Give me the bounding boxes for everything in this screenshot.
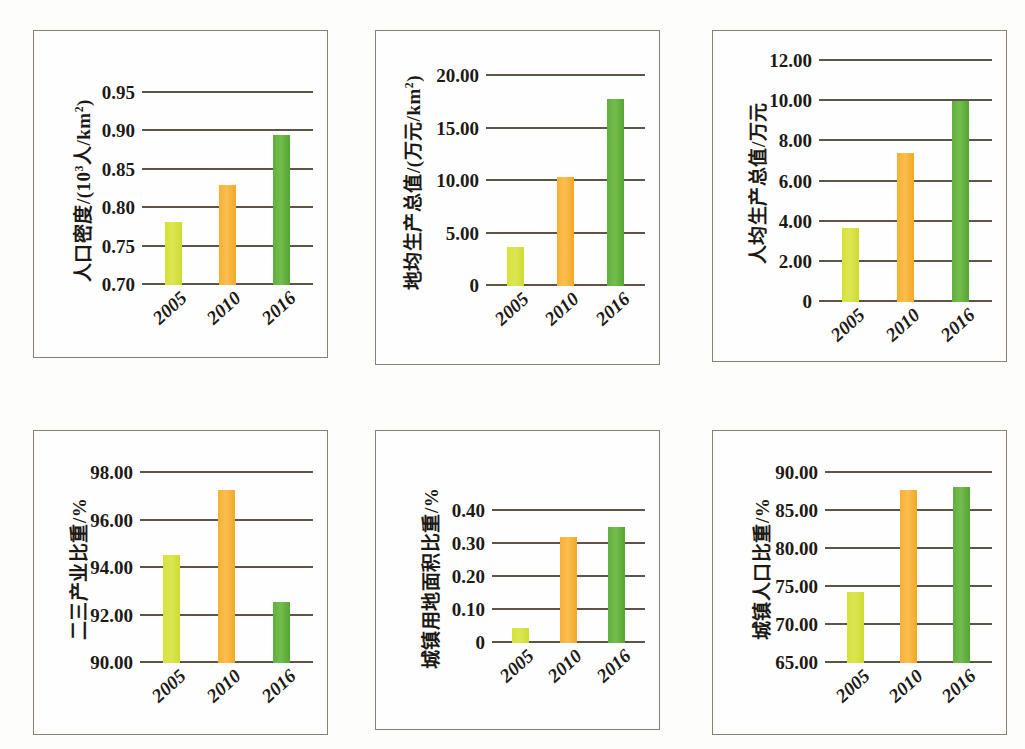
bar-2016[interactable] — [273, 602, 290, 663]
bar-2016[interactable] — [953, 487, 970, 663]
y-axis-tick-label: 75.00 — [775, 576, 818, 598]
bar-slot: 2016 — [255, 93, 309, 285]
bar-2005[interactable] — [512, 628, 529, 643]
x-axis-tick-label: 2010 — [881, 304, 924, 346]
y-axis-tick-label: 80.00 — [775, 538, 818, 560]
y-axis-tick-label: 0.30 — [452, 533, 485, 555]
chart-panel-land-gdp-density: 地均生产总值/(万元/km2) 05.0010.0015.0020.002005… — [375, 30, 660, 365]
bar-slot: 2016 — [933, 61, 988, 302]
y-axis-title: 城镇人口比重/% — [747, 498, 774, 640]
y-axis-tick-label: 96.00 — [90, 509, 133, 531]
y-axis-tick-label: 5.00 — [446, 222, 479, 244]
y-axis-title: 二三产业比重/% — [64, 498, 91, 640]
y-axis-tick-label: 6.00 — [779, 170, 812, 192]
y-axis-tick-label: 98.00 — [90, 462, 133, 484]
y-axis-tick-label: 90.00 — [90, 652, 133, 674]
x-axis-tick-label: 2005 — [149, 287, 192, 329]
y-axis-tick-label: 12.00 — [769, 50, 812, 72]
x-axis-tick-label: 2005 — [491, 288, 534, 330]
bar-group: 200520102016 — [140, 473, 313, 663]
y-axis-tick-label: 0 — [476, 632, 486, 654]
y-axis-tick-label: 10.00 — [769, 90, 812, 112]
bar-2010[interactable] — [897, 153, 914, 302]
bar-2010[interactable] — [557, 177, 574, 286]
bar-slot: 2005 — [823, 61, 878, 302]
bar-2005[interactable] — [507, 247, 524, 286]
y-axis-tick-label: 0 — [470, 275, 480, 297]
bar-2005[interactable] — [842, 228, 859, 302]
y-axis-tick-label: 85.00 — [775, 500, 818, 522]
y-axis-tick-label: 4.00 — [779, 210, 812, 232]
bar-slot: 2005 — [496, 511, 544, 643]
bar-slot: 2010 — [544, 511, 592, 643]
bar-slot: 2010 — [200, 93, 254, 285]
x-axis-tick-label: 2010 — [544, 645, 587, 687]
bar-2005[interactable] — [847, 592, 864, 663]
y-axis-tick-label: 0.10 — [452, 599, 485, 621]
x-axis-tick-label: 2005 — [147, 665, 190, 707]
bar-2005[interactable] — [165, 222, 182, 285]
y-axis-tick-label: 0.20 — [452, 566, 485, 588]
chart-area: 人口密度/(103人/km2) 0.700.750.800.850.900.95… — [34, 31, 327, 357]
chart-panel-urban-land-area-share: 城镇用地面积比重/% 00.100.200.300.40200520102016 — [375, 430, 660, 730]
bar-slot: 2016 — [591, 76, 641, 286]
x-axis-tick-label: 2016 — [937, 665, 980, 707]
y-axis-tick-label: 90.00 — [775, 462, 818, 484]
bar-slot: 2005 — [144, 473, 199, 663]
y-axis-tick-label: 8.00 — [779, 130, 812, 152]
chart-panel-population-density: 人口密度/(103人/km2) 0.700.750.800.850.900.95… — [33, 30, 328, 358]
y-axis-tick-label: 0.90 — [102, 120, 135, 142]
y-axis-tick-label: 0.85 — [102, 158, 135, 180]
bar-2016[interactable] — [952, 101, 969, 302]
chart-area: 二三产业比重/% 90.0092.0094.0096.0098.00200520… — [34, 431, 327, 734]
bar-2010[interactable] — [560, 537, 577, 643]
y-axis-tick-label: 0.70 — [102, 274, 135, 296]
x-axis-tick-label: 2005 — [831, 665, 874, 707]
chart-area: 城镇人口比重/% 65.0070.0075.0080.0085.0090.002… — [713, 431, 1006, 734]
y-axis-tick-label: 65.00 — [775, 652, 818, 674]
y-axis-tick-label: 70.00 — [775, 614, 818, 636]
y-axis-tick-label: 2.00 — [779, 250, 812, 272]
bar-slot: 2016 — [254, 473, 309, 663]
chart-area: 城镇用地面积比重/% 00.100.200.300.40200520102016 — [376, 431, 659, 729]
x-axis-tick-label: 2016 — [592, 645, 635, 687]
bar-slot: 2005 — [829, 473, 882, 663]
bar-2016[interactable] — [608, 527, 625, 643]
x-axis-tick-label: 2005 — [496, 645, 539, 687]
bar-2010[interactable] — [218, 490, 235, 663]
x-axis-tick-label: 2010 — [203, 287, 246, 329]
plot-area: 00.100.200.300.40200520102016 — [492, 511, 645, 643]
bar-group: 200520102016 — [486, 76, 645, 286]
bar-slot: 2005 — [146, 93, 200, 285]
chart-grid: 人口密度/(103人/km2) 0.700.750.800.850.900.95… — [0, 0, 1025, 749]
chart-panel-urban-population-share: 城镇人口比重/% 65.0070.0075.0080.0085.0090.002… — [712, 430, 1007, 735]
y-axis-title: 人均生产总值/万元 — [743, 102, 770, 264]
x-axis-tick-label: 2016 — [257, 287, 300, 329]
plot-area: 65.0070.0075.0080.0085.0090.002005201020… — [825, 473, 992, 663]
bar-slot: 2010 — [882, 473, 935, 663]
chart-area: 地均生产总值/(万元/km2) 05.0010.0015.0020.002005… — [376, 31, 659, 364]
y-axis-tick-label: 94.00 — [90, 557, 133, 579]
y-axis-title: 地均生产总值/(万元/km2) — [398, 75, 425, 290]
y-axis-tick-label: 0.75 — [102, 235, 135, 257]
x-axis-tick-label: 2016 — [936, 304, 979, 346]
bar-2016[interactable] — [607, 99, 624, 286]
bar-slot: 2016 — [593, 511, 641, 643]
bar-group: 200520102016 — [819, 61, 992, 302]
chart-area: 人均生产总值/万元 02.004.006.008.0010.0012.00200… — [713, 31, 1006, 361]
chart-panel-secondary-tertiary-industry-share: 二三产业比重/% 90.0092.0094.0096.0098.00200520… — [33, 430, 328, 735]
bar-2010[interactable] — [900, 490, 917, 663]
bar-2016[interactable] — [273, 135, 290, 285]
bar-2010[interactable] — [219, 185, 236, 285]
y-axis-tick-label: 20.00 — [436, 65, 479, 87]
y-axis-title: 城镇用地面积比重/% — [416, 487, 443, 668]
bar-slot: 2010 — [540, 76, 590, 286]
y-axis-tick-label: 0.80 — [102, 197, 135, 219]
bar-group: 200520102016 — [142, 93, 313, 285]
bar-group: 200520102016 — [492, 511, 645, 643]
x-axis-tick-label: 2005 — [826, 304, 869, 346]
bar-2005[interactable] — [163, 555, 180, 663]
x-axis-tick-label: 2016 — [591, 288, 634, 330]
chart-panel-per-capita-gdp: 人均生产总值/万元 02.004.006.008.0010.0012.00200… — [712, 30, 1007, 362]
x-axis-tick-label: 2016 — [257, 665, 300, 707]
